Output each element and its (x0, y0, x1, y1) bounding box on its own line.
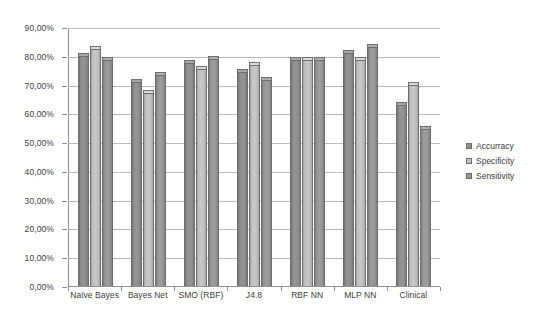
bar (355, 57, 366, 286)
bar (155, 72, 166, 286)
bar-top-cap (184, 60, 195, 64)
y-axis-tick-label: 10,00% (25, 253, 54, 263)
bar (367, 44, 378, 286)
bar-top-cap (155, 72, 166, 76)
y-axis-tick (62, 258, 67, 259)
y-axis-tick (62, 287, 67, 288)
x-axis-tick (174, 287, 175, 291)
bar-top-cap (290, 57, 301, 61)
y-axis-tick-label: 50,00% (25, 138, 54, 148)
bar-body (184, 63, 195, 286)
bar-body (155, 75, 166, 286)
bar-body (249, 65, 260, 286)
y-axis-labels: 90,00%80,00%70,00%60,00%50,00%40,00%30,0… (0, 28, 62, 287)
bar-body (367, 47, 378, 286)
bar-group-inner (387, 28, 440, 286)
x-axis-tick-label: J4.8 (227, 290, 280, 300)
bar-groups (69, 28, 440, 286)
y-axis-tick (62, 57, 67, 58)
legend-item-label: Sensitivity (476, 171, 514, 181)
bar-top-cap (420, 126, 431, 130)
bar-chart: 90,00%80,00%70,00%60,00%50,00%40,00%30,0… (0, 0, 547, 324)
bar-top-cap (102, 57, 113, 61)
bar-top-cap (143, 90, 154, 94)
bar-body (237, 72, 248, 286)
bar-body (408, 85, 419, 286)
plot-area (68, 28, 440, 287)
x-axis-labels: Naïve BayesBayes NetSMO (RBF)J4.8RBF NNM… (68, 290, 440, 300)
bar-body (196, 69, 207, 286)
y-axis-tick (62, 114, 67, 115)
y-axis-tick (62, 172, 67, 173)
bar-body (90, 49, 101, 286)
bar-body (420, 129, 431, 286)
y-axis-tick-label: 70,00% (25, 81, 54, 91)
bar-group (334, 28, 387, 286)
bar-group (122, 28, 175, 286)
bar (408, 82, 419, 286)
x-axis-line (68, 286, 440, 287)
legend-item-label: Specificity (476, 156, 514, 166)
bar-top-cap (396, 102, 407, 106)
bar-top-cap (261, 77, 272, 81)
legend-item: Specificity (466, 153, 544, 168)
bar (102, 57, 113, 286)
bar-group (228, 28, 281, 286)
bar (290, 57, 301, 286)
y-axis-tick-label: 80,00% (25, 52, 54, 62)
bar-top-cap (196, 66, 207, 70)
bar-top-cap (355, 57, 366, 61)
chart-legend: AccurracySpecificitySensitivity (466, 138, 544, 183)
x-axis-tick-label: Bayes Net (121, 290, 174, 300)
bar (314, 57, 325, 286)
bar-group-inner (69, 28, 122, 286)
y-axis-tick (62, 201, 67, 202)
y-axis-tick-label: 20,00% (25, 224, 54, 234)
bar-group (69, 28, 122, 286)
bar (249, 62, 260, 286)
bar-group-inner (175, 28, 228, 286)
bar-top-cap (208, 56, 219, 60)
bar-top-cap (408, 82, 419, 86)
y-axis-tick (62, 143, 67, 144)
y-axis-tick-label: 30,00% (25, 196, 54, 206)
x-axis-tick (387, 287, 388, 291)
bar (208, 56, 219, 286)
x-axis-tick-label: RBF NN (281, 290, 334, 300)
x-axis-tick (227, 287, 228, 291)
bar-top-cap (314, 57, 325, 61)
bar-top-cap (302, 57, 313, 61)
bar (196, 66, 207, 286)
y-axis-tick-label: 0,00% (29, 282, 54, 292)
x-axis-tick-label: SMO (RBF) (174, 290, 227, 300)
legend-item: Accurracy (466, 138, 544, 153)
bar-body (261, 80, 272, 286)
x-axis-tick (281, 287, 282, 291)
x-axis-tick (334, 287, 335, 291)
bar (302, 57, 313, 286)
legend-item-label: Accurracy (476, 141, 514, 151)
x-axis-tick (121, 287, 122, 291)
bar-group-inner (334, 28, 387, 286)
y-axis-tick (62, 86, 67, 87)
x-axis-tick-label: Naïve Bayes (68, 290, 121, 300)
legend-swatch-icon (466, 158, 472, 164)
bar (237, 69, 248, 286)
legend-swatch-icon (466, 143, 472, 149)
y-axis-tick (62, 229, 67, 230)
bar-top-cap (367, 44, 378, 48)
bar (420, 126, 431, 286)
bar-body (355, 60, 366, 286)
legend-swatch-icon (466, 173, 472, 179)
bar-body (143, 93, 154, 286)
bar-group (175, 28, 228, 286)
bar-body (131, 82, 142, 286)
bar-group (387, 28, 440, 286)
y-axis-tick (62, 28, 67, 29)
bar (343, 50, 354, 286)
y-axis-tick-label: 90,00% (25, 23, 54, 33)
y-axis-tick-label: 60,00% (25, 109, 54, 119)
x-axis-tick (68, 287, 69, 291)
bar-body (102, 60, 113, 286)
bar-body (343, 53, 354, 286)
